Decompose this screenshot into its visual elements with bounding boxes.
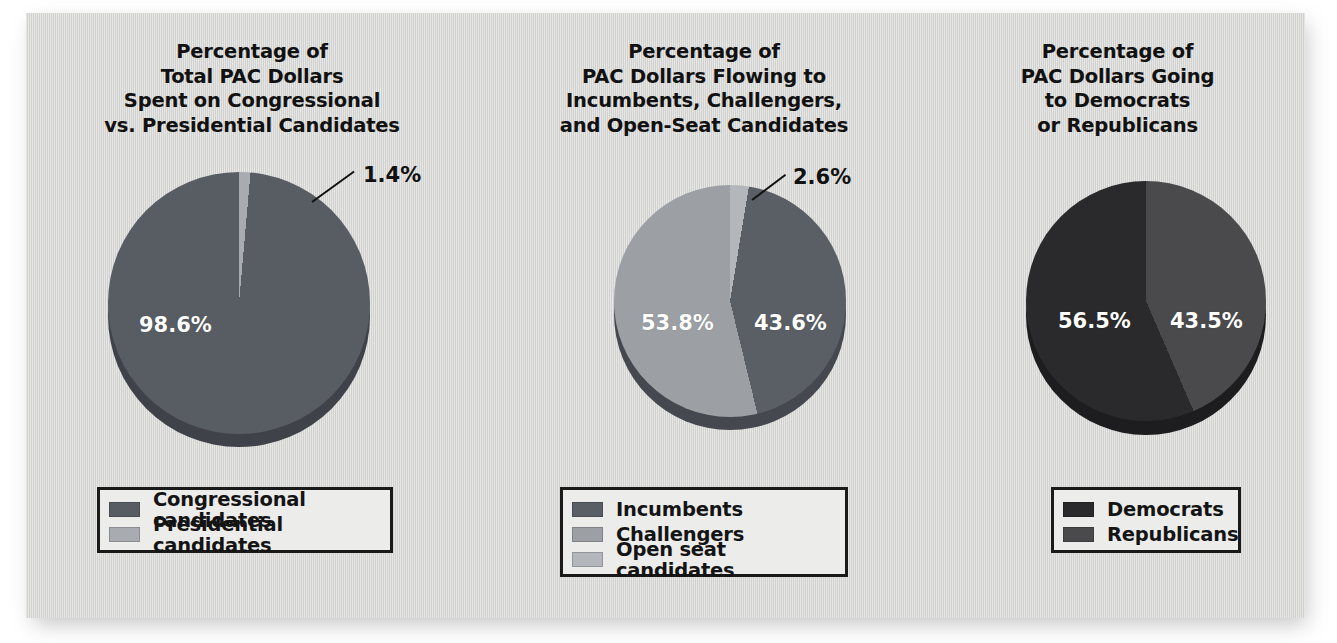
pie-graphic-2 [614, 185, 846, 417]
pie-graphic-3 [1026, 181, 1266, 421]
legend-item-democrats[interactable]: Democrats [1063, 497, 1226, 522]
chart-title-3: Percentage of PAC Dollars Going to Democ… [930, 40, 1305, 138]
pie-slice-label-presidential: 1.4% [363, 163, 421, 187]
pie-graphic-1 [108, 172, 370, 434]
pie-slice-label-congressional: 98.6% [139, 313, 212, 337]
chart-title-2: Percentage of PAC Dollars Flowing to Inc… [478, 40, 930, 138]
pie-disc-3 [1026, 181, 1266, 421]
legend-label-incumbents: Incumbents [616, 499, 743, 520]
legend-swatch-congressional [109, 502, 140, 517]
pie-disc-2 [614, 185, 846, 417]
chart-title-1: Percentage of Total PAC Dollars Spent on… [26, 40, 478, 138]
legend-label-presidential: Presidential candidates [153, 514, 378, 556]
legend-chart-1: Congressional candidates Presidential ca… [97, 487, 393, 553]
legend-swatch-challengers [572, 527, 603, 542]
pie-chart-congressional-vs-presidential: Percentage of Total PAC Dollars Spent on… [26, 13, 478, 618]
legend-label-republicans: Republicans [1107, 524, 1238, 545]
chart-panel: Percentage of Total PAC Dollars Spent on… [26, 13, 1305, 618]
pie-disc-1 [108, 172, 370, 434]
legend-swatch-incumbents [572, 502, 603, 517]
pie-slice-label-republicans: 43.5% [1170, 309, 1243, 333]
pie-chart-democrats-republicans: Percentage of PAC Dollars Going to Democ… [930, 13, 1305, 618]
legend-swatch-republicans [1063, 527, 1094, 542]
legend-label-democrats: Democrats [1107, 499, 1224, 520]
legend-item-presidential-candidates[interactable]: Presidential candidates [109, 522, 378, 547]
legend-chart-3: Democrats Republicans [1051, 487, 1241, 553]
legend-item-incumbents[interactable]: Incumbents [572, 497, 833, 522]
pie-slice-label-open-seat: 2.6% [793, 165, 851, 189]
legend-item-open-seat-candidates[interactable]: Open seat candidates [572, 547, 833, 572]
legend-swatch-open-seat [572, 552, 603, 567]
legend-item-republicans[interactable]: Republicans [1063, 522, 1226, 547]
legend-swatch-democrats [1063, 502, 1094, 517]
legend-chart-2: Incumbents Challengers Open seat candida… [560, 487, 848, 577]
pie-slice-label-challengers: 53.8% [641, 311, 714, 335]
figure-canvas: Percentage of Total PAC Dollars Spent on… [0, 0, 1337, 643]
legend-label-open-seat: Open seat candidates [616, 539, 833, 581]
legend-swatch-presidential [109, 527, 140, 542]
pie-chart-incumbents-challengers-openseat: Percentage of PAC Dollars Flowing to Inc… [478, 13, 930, 618]
pie-slice-label-incumbents: 43.6% [754, 311, 827, 335]
pie-slice-label-democrats: 56.5% [1058, 309, 1131, 333]
